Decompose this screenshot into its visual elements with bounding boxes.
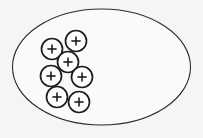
enclosing-ellipse (13, 9, 191, 125)
charge-diagram-svg (0, 0, 203, 138)
positive-charge-icon (47, 87, 68, 108)
positive-charge-icon (72, 67, 93, 88)
positive-charge-icon (66, 31, 87, 52)
positive-charge-icon (41, 66, 62, 87)
charges-group (41, 31, 93, 113)
charge-diagram-canvas (0, 0, 203, 138)
positive-charge-icon (69, 92, 90, 113)
